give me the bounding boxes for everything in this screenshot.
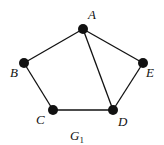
node-label-C: C [36, 112, 45, 127]
edge-E-D [113, 63, 143, 110]
edge-A-B [24, 29, 83, 63]
node-D [108, 105, 118, 115]
node-C [48, 105, 58, 115]
edge-A-D [83, 29, 113, 110]
node-label-B: B [10, 65, 18, 80]
node-label-D: D [117, 114, 128, 129]
graph-nodes [19, 24, 148, 115]
edge-A-E [83, 29, 143, 63]
graph-diagram: ABCDE G1 [0, 0, 164, 145]
node-label-E: E [145, 65, 154, 80]
edge-B-C [24, 63, 53, 110]
graph-caption: G1 [70, 128, 84, 145]
node-label-A: A [87, 7, 96, 22]
node-A [78, 24, 88, 34]
graph-edges [24, 29, 143, 110]
node-B [19, 58, 29, 68]
